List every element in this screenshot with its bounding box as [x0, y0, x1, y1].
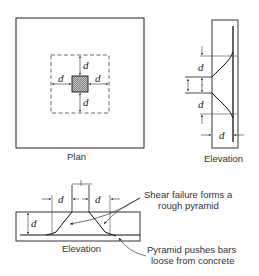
annotations: Shear failure forms a rough pyramid Pyra… [144, 189, 236, 266]
shear-crack-left [46, 212, 72, 235]
dim-label-depth: d [31, 217, 37, 229]
dim-label-upper: d [198, 61, 204, 73]
dim-label-bottom: d [83, 96, 89, 108]
plan-caption: Plan [67, 151, 86, 162]
shear-note-line2: rough pyramid [158, 200, 219, 211]
dim-label-horizontal: d [219, 129, 225, 141]
bars-note-line1: Pyramid pushes bars [147, 244, 236, 255]
column-section [72, 76, 88, 92]
slab-section-vertical [212, 20, 238, 148]
dim-label-top: d [83, 59, 89, 71]
bars-note-line2: loose from concrete [151, 255, 234, 266]
bottom-elevation-caption: Elevation [62, 243, 101, 254]
shear-note-line1: Shear failure forms a [144, 189, 233, 200]
side-elevation-view: d d d Elevation [185, 20, 244, 164]
leader-shear-right [104, 198, 140, 224]
dim-label-left: d [58, 72, 64, 84]
dim-label-right-offset: d [95, 193, 101, 205]
bottom-elevation-view: d d d Elevation [16, 180, 146, 256]
dim-label-right: d [95, 72, 101, 84]
plan-view: d d d d Plan [16, 18, 144, 162]
punching-shear-diagram: d d d d Plan d d d [0, 0, 259, 276]
dim-label-lower: d [198, 98, 204, 110]
side-elevation-caption: Elevation [204, 153, 243, 164]
leader-shear-left [70, 198, 140, 224]
dim-label-left-offset: d [58, 193, 64, 205]
